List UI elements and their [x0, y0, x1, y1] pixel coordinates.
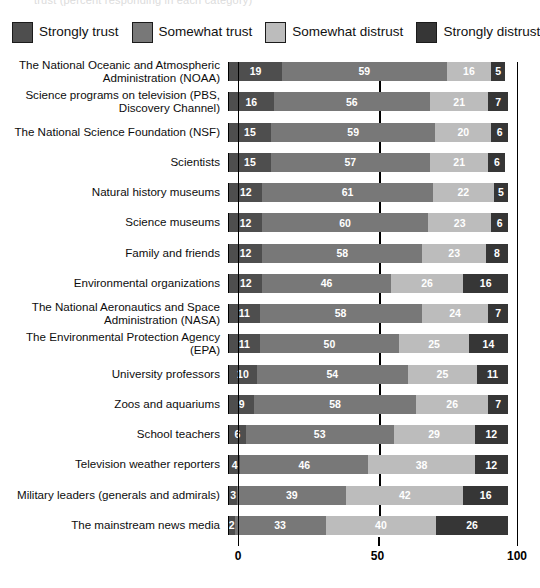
bar-segment: 12: [229, 274, 262, 293]
bar-segment: 61: [262, 183, 432, 202]
bar-segment: 15: [229, 123, 271, 142]
category-label: Natural history museums: [0, 186, 228, 199]
bar-segment: 24: [422, 304, 489, 323]
category-label-line: The National Aeronautics and Space: [0, 301, 220, 314]
bar-segment-value: 16: [245, 97, 257, 108]
stacked-bar-chart: The National Oceanic and AtmosphericAdmi…: [0, 62, 531, 562]
bar-segment-value: 7: [495, 399, 501, 410]
category-label: The Environmental Protection Agency (EPA…: [0, 331, 228, 356]
bar-segment-value: 19: [250, 66, 262, 77]
category-label: Television weather reporters: [0, 458, 228, 471]
category-label: Zoos and aquariums: [0, 398, 228, 411]
category-label: Scientists: [0, 156, 228, 169]
bar-segment-value: 12: [485, 460, 497, 471]
bar-segment: 46: [262, 274, 390, 293]
legend-label: Strongly distrust: [443, 25, 540, 39]
chart-row: Military leaders (generals and admirals)…: [0, 486, 531, 505]
stacked-bar: 1656217: [228, 92, 508, 111]
bar-segment-value: 20: [458, 127, 470, 138]
y-axis-spine: [238, 62, 239, 546]
bar-segment-value: 23: [448, 248, 460, 259]
bar-segment: 20: [435, 123, 491, 142]
category-label: Science programs on television (PBS,Disc…: [0, 89, 228, 114]
bar-segment-value: 6: [497, 218, 503, 229]
bar-segment-value: 25: [437, 369, 449, 380]
bar-segment-value: 11: [487, 369, 498, 380]
bar-segment-value: 59: [347, 127, 359, 138]
bar-segment: 60: [262, 213, 428, 232]
bar-segment-value: 59: [358, 66, 370, 77]
chart-row: School teachers6532912: [0, 425, 531, 444]
chart-row: Environmental organizations12462616: [0, 274, 531, 293]
stacked-bar: 2334026: [228, 516, 508, 535]
bar-segment-value: 12: [240, 187, 252, 198]
bar-segment: 16: [229, 92, 274, 111]
bar-segment-value: 58: [336, 248, 348, 259]
x-axis-tick: [238, 537, 239, 546]
bar-segment: 12: [475, 455, 508, 474]
bar-segment: 26: [436, 516, 508, 535]
bar-segment-value: 15: [244, 127, 256, 138]
bar-segment-value: 4: [232, 460, 238, 471]
bar-segment: 21: [430, 92, 489, 111]
x-axis-tick-label: 0: [235, 549, 242, 563]
bar-segment: 22: [433, 183, 494, 202]
bar-segment: 11: [229, 334, 260, 353]
category-label: The National Science Foundation (NSF): [0, 126, 228, 139]
chart-row: Family and friends1258238: [0, 244, 531, 263]
reference-line-tick: [379, 111, 381, 122]
bar-segment: 12: [229, 183, 262, 202]
reference-line-tick: [379, 353, 381, 364]
bar-segment-value: 26: [466, 520, 478, 531]
x-axis-tick: [378, 537, 380, 546]
bar-segment-value: 26: [421, 278, 433, 289]
stacked-bar: 1158247: [228, 304, 508, 323]
reference-line-tick: [379, 81, 381, 92]
category-label-line: School teachers: [0, 428, 220, 441]
reference-line-tick: [379, 293, 381, 304]
stacked-bar: 6532912: [228, 425, 508, 444]
legend-item-0: Strongly trust: [12, 22, 119, 43]
bar-segment-value: 50: [324, 339, 336, 350]
bar-segment-value: 21: [453, 97, 465, 108]
bar-segment-value: 7: [495, 308, 501, 319]
chart-row: Science museums1260236: [0, 213, 531, 232]
bar-segment-value: 46: [321, 278, 333, 289]
bar-segment-value: 29: [428, 429, 440, 440]
legend-item-2: Somewhat distrust: [265, 22, 403, 43]
bar-segment-value: 12: [485, 429, 497, 440]
stacked-bar: 4463812: [228, 455, 508, 474]
stacked-bar: 1559206: [228, 123, 508, 142]
bar-segment-value: 42: [399, 490, 411, 501]
category-label: The National Aeronautics and SpaceAdmini…: [0, 301, 228, 326]
category-label-line: Environmental organizations: [0, 277, 220, 290]
bar-segment-value: 23: [454, 218, 466, 229]
bar-segment-value: 24: [449, 308, 461, 319]
bar-segment: 15: [229, 153, 271, 172]
bar-segment-value: 61: [342, 187, 354, 198]
bar-segment-value: 16: [480, 278, 492, 289]
chart-row: The mainstream news media2334026: [0, 516, 531, 535]
bar-segment: 14: [469, 334, 508, 353]
legend-swatch-icon: [416, 22, 437, 43]
reference-line-tick: [379, 505, 381, 516]
legend-label: Somewhat trust: [159, 25, 253, 39]
bar-segment-value: 11: [239, 308, 250, 319]
category-label: Science museums: [0, 216, 228, 229]
bar-segment-value: 12: [240, 248, 252, 259]
category-label-line: Science museums: [0, 216, 220, 229]
category-label-line: University professors: [0, 368, 220, 381]
bar-segment-value: 38: [416, 460, 428, 471]
reference-line-tick: [379, 414, 381, 425]
legend-swatch-icon: [265, 22, 286, 43]
bar-segment-value: 25: [428, 339, 440, 350]
reference-line-tick: [379, 202, 381, 213]
chart-row: The Environmental Protection Agency (EPA…: [0, 334, 531, 353]
stacked-bar: 1261225: [228, 183, 508, 202]
reference-line-tick: [379, 263, 381, 274]
category-label: University professors: [0, 368, 228, 381]
bar-segment-value: 56: [346, 97, 358, 108]
reference-line-tick: [379, 142, 381, 153]
category-label-line: The National Oceanic and Atmospheric: [0, 59, 220, 72]
bar-segment: 25: [408, 365, 478, 384]
